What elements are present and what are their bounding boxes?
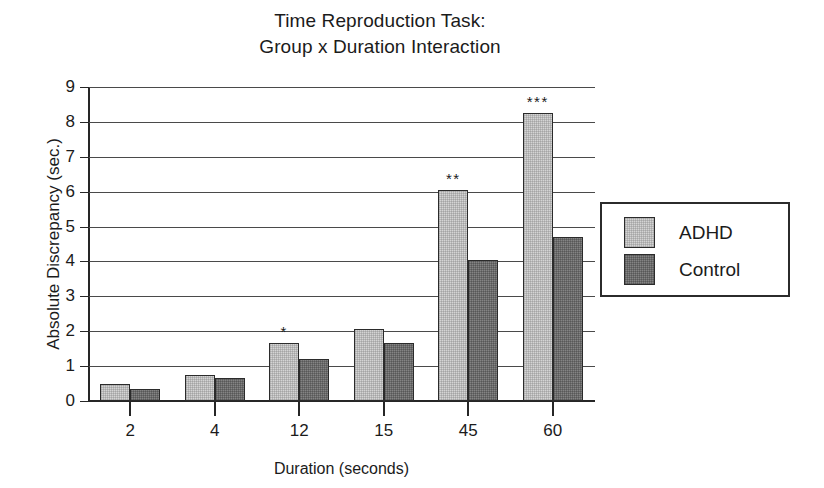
- bar-control-45: [468, 260, 498, 401]
- page-title: Time Reproduction Task: Group x Duration…: [140, 8, 620, 60]
- bar-control-12: [299, 359, 329, 401]
- y-tick-label: 1: [66, 356, 75, 376]
- x-tick-mark: [214, 401, 216, 416]
- x-axis-line: [88, 400, 595, 402]
- legend: ADHD Control: [600, 202, 790, 297]
- bar-adhd-2: [100, 384, 130, 401]
- legend-label-control: Control: [679, 259, 740, 281]
- bar-adhd-12: [269, 343, 299, 401]
- y-tick-label: 4: [66, 251, 75, 271]
- y-tick-mark: [80, 331, 89, 332]
- y-tick-mark: [80, 401, 89, 402]
- gridline: [88, 261, 595, 262]
- gridline: [88, 122, 595, 123]
- legend-label-adhd: ADHD: [679, 222, 733, 244]
- gridline: [88, 227, 595, 228]
- gridline: [88, 366, 595, 367]
- x-tick-mark: [129, 401, 131, 416]
- bar-adhd-60: [523, 113, 553, 401]
- x-tick-mark: [298, 401, 300, 416]
- x-tick-mark: [552, 401, 554, 416]
- x-tick-label-2: 2: [126, 421, 135, 441]
- x-tick-mark: [467, 401, 469, 416]
- x-tick-label-45: 45: [459, 421, 478, 441]
- y-tick-label: 9: [66, 77, 75, 97]
- y-tick-label: 3: [66, 286, 75, 306]
- legend-swatch-adhd: [624, 217, 655, 248]
- chart-title-line-1: Time Reproduction Task:: [140, 8, 620, 34]
- y-tick-mark: [80, 227, 89, 228]
- chart-title-line-2: Group x Duration Interaction: [140, 34, 620, 60]
- gridline: [88, 296, 595, 297]
- plot-area: 0123456789 ****** 2412154560: [88, 87, 595, 401]
- y-tick-mark: [80, 366, 89, 367]
- bar-adhd-45: [438, 190, 468, 401]
- gridline: [88, 87, 595, 88]
- bar-control-2: [130, 389, 160, 401]
- x-axis-title: Duration (seconds): [88, 460, 595, 478]
- x-tick-mark: [383, 401, 385, 416]
- y-tick-label: 7: [66, 147, 75, 167]
- y-tick-label: 5: [66, 217, 75, 237]
- significance-marker-45: **: [446, 174, 461, 184]
- bar-adhd-4: [185, 375, 215, 401]
- legend-swatch-control: [624, 254, 655, 285]
- y-axis-line: [88, 87, 90, 401]
- x-tick-label-4: 4: [210, 421, 219, 441]
- legend-item-control: Control: [624, 251, 788, 288]
- y-tick-label: 6: [66, 182, 75, 202]
- gridline: [88, 157, 595, 158]
- gridline: [88, 331, 595, 332]
- legend-item-adhd: ADHD: [624, 214, 788, 251]
- y-tick-mark: [80, 296, 89, 297]
- y-tick-mark: [80, 122, 89, 123]
- y-tick-mark: [80, 157, 89, 158]
- significance-marker-12: *: [281, 327, 288, 337]
- x-tick-label-60: 60: [543, 421, 562, 441]
- chart-page: Time Reproduction Task: Group x Duration…: [0, 0, 824, 488]
- y-tick-mark: [80, 261, 89, 262]
- y-tick-mark: [80, 192, 89, 193]
- y-tick-label: 2: [66, 321, 75, 341]
- y-axis-title: Absolute Discrepancy (sec.): [44, 94, 64, 394]
- y-tick-mark: [80, 87, 89, 88]
- y-tick-label: 0: [66, 391, 75, 411]
- bar-control-60: [553, 237, 583, 401]
- gridline: [88, 192, 595, 193]
- significance-marker-60: ***: [527, 97, 549, 107]
- bar-control-15: [384, 343, 414, 401]
- x-tick-label-12: 12: [290, 421, 309, 441]
- y-tick-label: 8: [66, 112, 75, 132]
- bar-control-4: [215, 378, 245, 401]
- x-tick-label-15: 15: [374, 421, 393, 441]
- bar-adhd-15: [354, 329, 384, 401]
